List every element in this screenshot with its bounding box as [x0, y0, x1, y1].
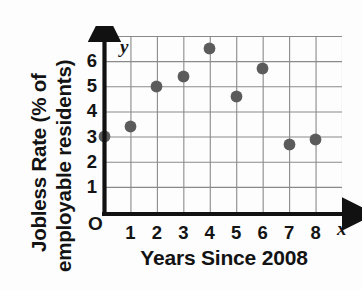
y-tick-label: 4	[77, 100, 97, 122]
y-axis-variable-label: y	[120, 36, 128, 58]
data-points-layer	[104, 36, 342, 212]
y-axis-title: Jobless Rate (% of employable residents)	[0, 0, 78, 272]
plot-area	[104, 36, 342, 212]
scatter-plot-figure: Jobless Rate (% of employable residents)…	[0, 0, 362, 290]
x-tick-label: 4	[199, 222, 221, 244]
x-axis-title: Years Since 2008	[96, 246, 352, 270]
data-point	[284, 139, 295, 150]
data-point	[231, 91, 242, 102]
origin-label: O	[88, 213, 103, 235]
x-tick-label: 1	[119, 222, 141, 244]
y-tick-label: 3	[77, 126, 97, 148]
x-tick-label: 2	[146, 222, 168, 244]
x-tick-label: 8	[305, 222, 327, 244]
data-point	[99, 131, 110, 142]
x-axis-variable-label: x	[337, 218, 347, 240]
y-axis-title-line-2: employable residents)	[52, 60, 76, 272]
y-tick-label: 1	[77, 176, 97, 198]
x-tick-label: 3	[172, 222, 194, 244]
data-point	[204, 43, 215, 54]
y-tick-label: 2	[77, 151, 97, 173]
y-tick-label: 6	[77, 50, 97, 72]
y-tick-label: 5	[77, 75, 97, 97]
y-axis-title-line-1: Jobless Rate (% of	[27, 73, 51, 252]
data-point	[125, 121, 136, 132]
data-point	[310, 134, 321, 145]
data-point	[257, 63, 268, 74]
x-tick-label: 7	[278, 222, 300, 244]
data-point	[151, 81, 162, 92]
x-tick-label: 6	[252, 222, 274, 244]
data-point	[178, 71, 189, 82]
x-tick-label: 5	[225, 222, 247, 244]
